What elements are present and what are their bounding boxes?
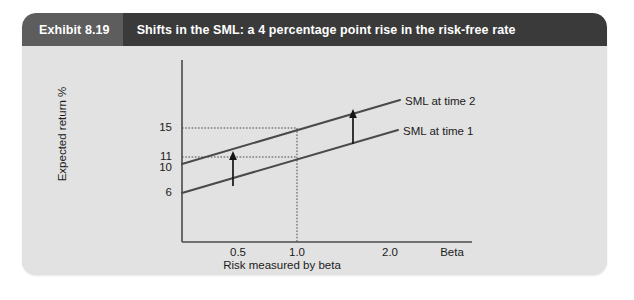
y-axis-title: Expected return % [56, 54, 68, 214]
sml-chart-svg [22, 46, 607, 275]
exhibit-number-label: Exhibit 8.19 [22, 13, 123, 46]
series-label-sml-time-1: SML at time 1 [403, 125, 474, 137]
y-tick-6: 6 [146, 186, 172, 198]
x-axis-title: Risk measured by beta [162, 259, 402, 271]
x-tick-0-5: 0.5 [222, 246, 254, 258]
shift-arrow-left-icon [229, 151, 237, 186]
y-tick-15: 15 [146, 121, 172, 133]
exhibit-card: Exhibit 8.19 Shifts in the SML: a 4 perc… [22, 13, 607, 275]
sml-time-1-line [182, 130, 398, 193]
sml-time-2-line [182, 100, 400, 164]
series-label-sml-time-2: SML at time 2 [405, 95, 476, 107]
exhibit-header: Exhibit 8.19 Shifts in the SML: a 4 perc… [22, 13, 607, 46]
exhibit-title-label: Shifts in the SML: a 4 percentage point … [123, 13, 607, 46]
chart-area: Expected return % 15 11 10 6 0.5 1.0 2.0… [22, 46, 607, 275]
x-tick-1-0: 1.0 [281, 246, 313, 258]
screenshot-root: Exhibit 8.19 Shifts in the SML: a 4 perc… [0, 0, 634, 300]
x-axis-end-label-beta: Beta [432, 246, 472, 258]
y-tick-10: 10 [146, 161, 172, 173]
x-tick-2-0: 2.0 [374, 246, 406, 258]
